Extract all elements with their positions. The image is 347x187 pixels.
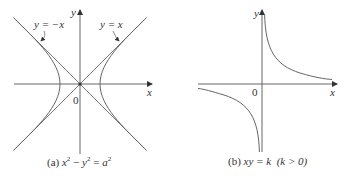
caption-b-condition: (k > 0) [277,155,308,167]
caption-b: (b) xy = k (k > 0) [228,155,307,167]
y-axis-label: y [253,7,259,19]
hyperbola-q3-branch [198,89,259,153]
y-axis-label: y [70,6,76,18]
x-axis-label: x [329,86,335,98]
asymptote-label-neg: y = −x [33,18,64,30]
caption-a-minus: − [70,156,82,168]
caption-a-eq: = [90,156,102,168]
origin-label: 0 [252,86,258,98]
caption-b-prefix: (b) [228,155,244,167]
asymptote-label-pos: y = x [99,18,123,30]
pointer-arrow-pos [113,31,119,41]
hyperbola-q1-branch [265,14,332,80]
caption-b-equation: xy = k [244,155,272,167]
caption-a: (a) x2 − y2 = a2 [47,155,111,168]
caption-a-exp3: 2 [108,155,112,163]
figure-b: y x 0 [198,7,337,152]
caption-a-prefix: (a) [47,156,62,168]
origin-dot [78,82,81,85]
pointer-arrow-neg [41,31,45,41]
figure-a: y x 0 y = −x y = x [13,6,152,154]
origin-label: 0 [73,94,79,106]
x-axis-label: x [146,86,152,98]
